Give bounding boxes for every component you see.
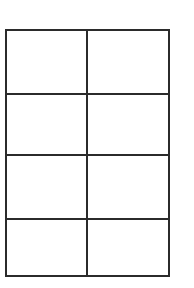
grid-cell-r1-c1 — [7, 31, 88, 95]
grid-cell-r3-c1 — [7, 156, 88, 220]
empty-grid-table — [5, 29, 170, 277]
grid-cell-r3-c2 — [88, 156, 168, 220]
grid-cell-r2-c1 — [7, 95, 88, 156]
grid-cell-r4-c1 — [7, 220, 88, 275]
grid-cell-r1-c2 — [88, 31, 168, 95]
grid-cell-r4-c2 — [88, 220, 168, 275]
grid-cell-r2-c2 — [88, 95, 168, 156]
